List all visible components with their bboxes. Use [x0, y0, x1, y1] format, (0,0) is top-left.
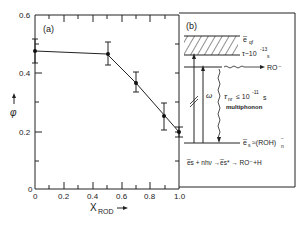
- xtick-0.2: 0.2: [58, 192, 70, 201]
- svg-text:X: X: [90, 202, 97, 213]
- ytick-0.4: 0.4: [19, 69, 31, 78]
- svg-text:qf: qf: [249, 39, 254, 45]
- figure: 0.6 0.4 0.2 0 0 0.2 0.4 0.6 0.8 1.0 (a) …: [0, 0, 307, 226]
- xtick-1.0: 1.0: [174, 192, 186, 201]
- reaction-equation: e̅s + nhν →e̅s* → RO⁻+H: [187, 159, 262, 166]
- panel-b-label: (b): [186, 21, 197, 31]
- svg-text:s: s: [263, 94, 267, 101]
- svg-text:RO⁻: RO⁻: [267, 64, 282, 71]
- svg-text:ω: ω: [206, 91, 212, 100]
- svg-text:e̅: e̅: [242, 36, 248, 43]
- data-series: [32, 39, 183, 137]
- quasi-free-band: [184, 36, 238, 55]
- xtick-0.6: 0.6: [116, 192, 128, 201]
- svg-text:τ~10: τ~10: [242, 50, 257, 57]
- x-ticks: [49, 15, 165, 189]
- ytick-0.6: 0.6: [19, 11, 31, 20]
- xtick-0: 0: [33, 192, 38, 201]
- svg-text:ROD: ROD: [98, 208, 114, 215]
- xtick-0.4: 0.4: [87, 192, 99, 201]
- panel-a-axes: [35, 15, 179, 189]
- y-axis-label: φ: [10, 93, 17, 118]
- svg-text:φ: φ: [10, 107, 17, 118]
- data-points: [33, 49, 181, 134]
- ytick-0.2: 0.2: [19, 128, 31, 137]
- svg-text:-13: -13: [260, 46, 267, 52]
- y-ticks: [35, 44, 179, 161]
- panel-b: (b) e̅ qf τ~10 -13 s RO⁻ ω τ: [179, 13, 295, 187]
- tick-labels: 0.6 0.4 0.2 0 0 0.2 0.4 0.6 0.8 1.0: [19, 11, 186, 201]
- svg-text:s: s: [248, 142, 251, 148]
- xtick-0.8: 0.8: [144, 192, 156, 201]
- arrow-up-icon: [12, 93, 16, 98]
- svg-text:-11: -11: [252, 89, 259, 95]
- panel-a-label: (a): [43, 24, 54, 34]
- x-axis-label: X ROD: [90, 202, 128, 215]
- svg-text:multiphonon: multiphonon: [226, 104, 263, 110]
- svg-text:n: n: [281, 143, 284, 149]
- svg-text:nr: nr: [228, 96, 233, 102]
- svg-text:≤ 10: ≤ 10: [236, 93, 250, 100]
- svg-text:≈(ROH): ≈(ROH): [252, 139, 276, 147]
- arrow-right-icon: [123, 206, 128, 210]
- svg-text:s: s: [267, 53, 270, 59]
- svg-text:−: −: [281, 135, 284, 141]
